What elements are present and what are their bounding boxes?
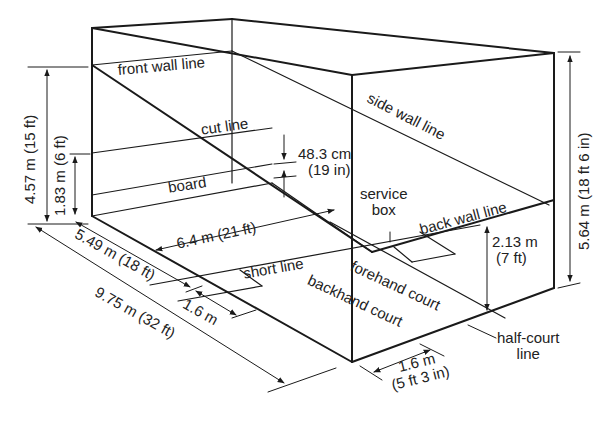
dim-back-wall-height-line1: 2.13 m: [492, 234, 538, 250]
label-half-court-line2: line: [497, 346, 560, 362]
dim-front-wall-height: 4.57 m (15 ft): [22, 115, 38, 204]
dim-side-wall-height: 5.64 m (18 ft 6 in): [576, 132, 592, 250]
label-service-box-line1: service: [360, 186, 408, 202]
dim-back-wall-height: 2.13 m (7 ft): [492, 234, 538, 266]
label-half-court-line: half-court line: [497, 330, 560, 362]
dim-board-height-line2: (19 in): [298, 162, 351, 178]
label-service-box-line2: box: [360, 202, 408, 218]
label-service-box: service box: [360, 186, 408, 218]
dim-back-wall-height-line2: (7 ft): [492, 250, 538, 266]
squash-court-diagram: front wall line cut line board side wall…: [0, 0, 610, 424]
dim-board-height-line1: 48.3 cm: [298, 146, 351, 162]
dim-cut-line-height: 1.83 m (6 ft): [52, 135, 68, 216]
label-half-court-line1: half-court: [497, 330, 560, 346]
dim-board-height: 48.3 cm (19 in): [298, 146, 351, 178]
